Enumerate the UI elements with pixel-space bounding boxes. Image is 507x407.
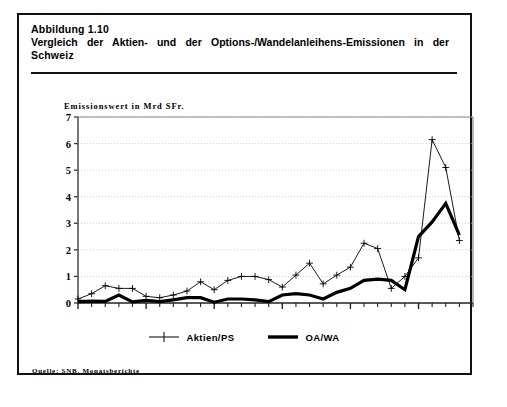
series-markers-aktien-ps [75,136,463,302]
figure-title-line-2: Schweiz [31,49,455,62]
series-line-aktien-ps [78,140,459,299]
legend-item-oa-wa: OA/WA [268,331,339,343]
figure-number: Abbildung 1.10 [31,23,455,36]
y-axis-ticks: 01234567 [66,112,78,309]
header-divider [31,72,457,74]
svg-text:2: 2 [66,245,71,256]
legend-label-aktien-ps: Aktien/PS [186,332,234,343]
series-line-oa-wa [78,203,459,302]
chart-plot-area: 01234567 196019651970197519801985 [62,111,474,311]
figure-header: Abbildung 1.10 Vergleich der Aktien- und… [31,23,455,62]
source-note: Quelle: SNB. Monatsberichte [32,367,140,375]
svg-text:7: 7 [66,112,71,123]
svg-text:1: 1 [66,271,71,282]
y-axis-title: Emissionswert in Mrd SFr. [64,101,184,111]
legend-label-oa-wa: OA/WA [305,332,339,343]
legend-item-aktien-ps: Aktien/PS [149,331,234,343]
svg-text:4: 4 [66,192,72,203]
line-chart-svg: 01234567 196019651970197519801985 [62,111,474,311]
figure-panel: Abbildung 1.10 Vergleich der Aktien- und… [17,13,472,375]
svg-text:0: 0 [66,298,71,309]
chart-legend: Aktien/PS OA/WA [19,331,470,343]
x-axis-ticks: 196019651970197519801985 [67,303,473,311]
legend-swatch-thin-plus-icon [149,331,179,343]
svg-text:5: 5 [66,165,71,176]
svg-text:3: 3 [66,218,71,229]
svg-text:6: 6 [66,139,71,150]
figure-title-line-1: Vergleich der Aktien- und der Options-/W… [31,36,449,49]
legend-swatch-thick-line-icon [268,331,298,343]
